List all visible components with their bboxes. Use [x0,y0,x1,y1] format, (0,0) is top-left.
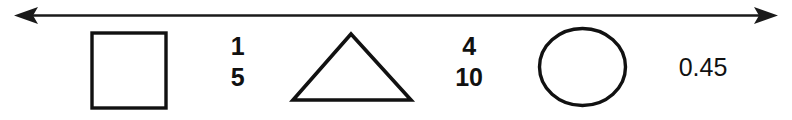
fraction-denominator: 10 [455,64,482,90]
diagram-canvas: 1 5 4 10 0.45 [0,0,792,120]
circle-outline-icon [537,26,628,108]
fraction-four-tenths: 4 10 [448,40,490,84]
fraction-denominator: 5 [231,64,245,90]
fraction-numerator: 4 [462,34,476,60]
decimal-value: 0.45 [670,52,736,82]
square-outline-icon [90,31,168,110]
fraction-numerator: 1 [231,34,245,60]
triangle-outline-icon [289,30,415,104]
fraction-one-fifth: 1 5 [222,40,253,84]
